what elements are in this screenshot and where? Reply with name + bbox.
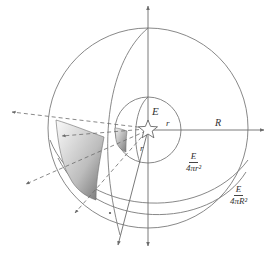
intersection-dot bbox=[109, 212, 111, 214]
small-radius-label: r bbox=[166, 119, 170, 128]
outer-flux-denominator: 4πR² bbox=[230, 196, 247, 206]
outer-flux-numerator: E bbox=[234, 185, 244, 196]
small-radius-diag-label: r bbox=[140, 144, 144, 153]
large-radius-label: R bbox=[215, 118, 221, 128]
inner-flux-fraction: E 4πr² bbox=[186, 152, 201, 173]
inner-flux-denominator: 4πr² bbox=[186, 163, 201, 173]
inner-flux-numerator: E bbox=[189, 152, 199, 163]
sphere-flux-diagram bbox=[0, 0, 273, 256]
ray-1 bbox=[12, 112, 146, 128]
outer-meridian bbox=[108, 28, 148, 235]
source-label: E bbox=[152, 106, 159, 117]
outer-flux-fraction: E 4πR² bbox=[230, 185, 247, 206]
